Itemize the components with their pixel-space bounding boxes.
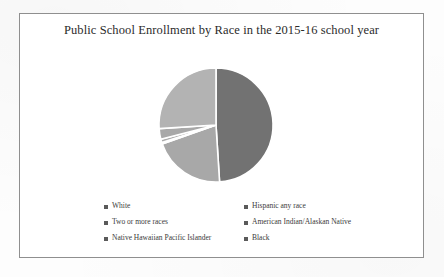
legend-item-label: Hispanic any race: [252, 202, 306, 210]
legend-swatch-icon: [244, 221, 248, 225]
chart-frame: Public School Enrollment by Race in the …: [19, 13, 424, 258]
legend-item-label: Two or more races: [112, 218, 168, 226]
legend-item[interactable]: Hispanic any race: [244, 202, 354, 210]
legend-item[interactable]: White: [104, 202, 244, 210]
legend-swatch-icon: [104, 205, 108, 209]
pie-chart: [156, 65, 276, 185]
legend-item-label: American Indian/Alaskan Native: [252, 218, 351, 226]
legend-item-label: Black: [252, 234, 270, 242]
legend-item-label: White: [112, 202, 130, 210]
pie-slice: [216, 68, 273, 182]
legend-item[interactable]: Two or more races: [104, 218, 244, 226]
legend-item[interactable]: American Indian/Alaskan Native: [244, 218, 354, 226]
legend-item[interactable]: Black: [244, 234, 354, 242]
chart-legend: WhiteHispanic any raceTwo or more racesA…: [104, 198, 354, 246]
pie-slice-group: [159, 68, 273, 182]
legend-swatch-icon: [104, 221, 108, 225]
pie-chart-svg: [156, 65, 276, 185]
legend-item-label: Native Hawaiian Pacific Islander: [112, 234, 211, 242]
legend-swatch-icon: [244, 205, 248, 209]
pie-slice: [159, 68, 216, 129]
legend-swatch-icon: [244, 237, 248, 241]
chart-title: Public School Enrollment by Race in the …: [20, 23, 423, 38]
legend-swatch-icon: [104, 237, 108, 241]
legend-item[interactable]: Native Hawaiian Pacific Islander: [104, 234, 244, 242]
